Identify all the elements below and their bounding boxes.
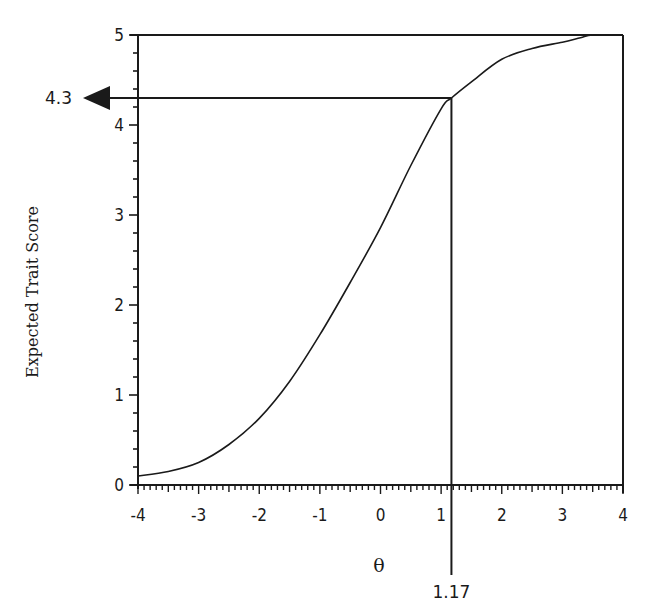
x-tick-label: -1 [312,505,327,525]
y-axis-title: Expected Trait Score [23,206,42,378]
x-annotation-label: 1.17 [433,582,471,602]
y-tick-label: 0 [114,475,124,495]
x-tick-label: 4 [618,505,628,525]
expected-score-curve [138,35,623,476]
plot-frame [130,35,623,493]
y-tick-label: 5 [114,25,124,45]
y-tick-label: 1 [114,385,124,405]
x-tick-label: 1 [436,505,446,525]
arrow-left-icon [83,86,110,110]
x-tick-label: -3 [191,505,206,525]
y-axis-tick-labels: 012345 [114,25,124,495]
x-tick-label: 0 [376,505,386,525]
test-characteristic-chart: 012345 -4-3-2-101234 4.31.17 Expected Tr… [0,0,647,616]
y-annotation-label: 4.3 [45,88,72,108]
x-tick-label: 3 [558,505,568,525]
y-tick-label: 3 [114,205,124,225]
y-axis-ticks [129,35,138,485]
x-axis-title: θ [373,554,384,576]
x-axis-tick-labels: -4-3-2-101234 [130,505,627,525]
x-tick-label: 2 [497,505,507,525]
y-tick-label: 4 [114,115,124,135]
x-tick-label: -4 [130,505,145,525]
x-tick-label: -2 [252,505,267,525]
y-tick-label: 2 [114,295,124,315]
x-axis-ticks [138,485,623,494]
